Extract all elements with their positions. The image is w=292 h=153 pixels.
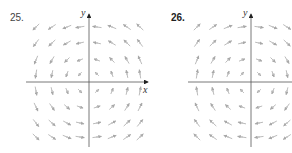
figure-26-vector-field [188, 14, 292, 147]
vector-field-plots [0, 0, 292, 153]
figure-25-vector-field [26, 14, 148, 147]
